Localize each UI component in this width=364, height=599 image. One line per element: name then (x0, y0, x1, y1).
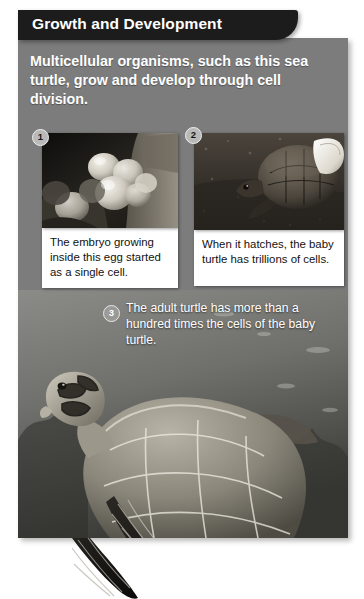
intro-paragraph: Multicellular organisms, such as this se… (30, 52, 330, 109)
turtle-flipper-overflow (72, 538, 182, 599)
step-card-2: When it hatches, the baby turtle has tri… (194, 133, 344, 286)
step-number-badge-3: 3 (103, 305, 120, 322)
hatchling-turtle-photo (194, 133, 344, 230)
step-3-caption: The adult turtle has more than a hundred… (126, 300, 331, 348)
step-number-badge-1: 1 (32, 129, 49, 146)
step-1-caption: The embryo growing inside this egg start… (42, 228, 178, 288)
step-number-badge-2: 2 (185, 127, 202, 144)
page-title: Growth and Development (32, 15, 222, 33)
step-card-1: The embryo growing inside this egg start… (42, 133, 178, 288)
turtle-eggs-photo (42, 133, 178, 228)
step-2-caption: When it hatches, the baby turtle has tri… (194, 230, 344, 286)
figure-panel: Growth and Development Multicellular org… (0, 0, 364, 599)
panel-header-bar: Growth and Development (18, 10, 298, 40)
